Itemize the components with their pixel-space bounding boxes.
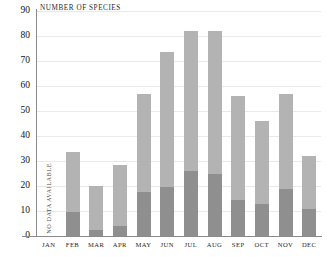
bar-segment-upper [255, 121, 269, 204]
y-tick-label: 50 [4, 106, 30, 116]
bar-segment-lower [184, 171, 198, 236]
bar-segment-lower [160, 187, 174, 236]
bar-dec[interactable] [302, 156, 316, 236]
bar-apr[interactable] [113, 165, 127, 236]
no-data-available-label: No data available [42, 114, 56, 234]
bar-segment-lower [231, 200, 245, 236]
bar-aug[interactable] [208, 31, 222, 236]
y-tick-label: 10 [4, 206, 30, 216]
bar-jul[interactable] [184, 31, 198, 236]
y-tick-label: 20 [4, 181, 30, 191]
x-tick-label-dec: DEC [294, 241, 324, 248]
bar-mar[interactable] [89, 186, 103, 236]
bar-segment-upper [66, 152, 80, 212]
bar-segment-lower [66, 212, 80, 236]
y-tick-label: 80 [4, 31, 30, 41]
bar-jun[interactable] [160, 52, 174, 236]
bar-segment-upper [279, 94, 293, 189]
bar-segment-lower [113, 226, 127, 236]
bar-segment-lower [255, 204, 269, 237]
no-data-available-text: No data available [45, 163, 52, 234]
bar-segment-lower [208, 174, 222, 237]
bar-segment-upper [113, 165, 127, 226]
y-tick-label: 60 [4, 81, 30, 91]
bar-nov[interactable] [279, 94, 293, 237]
x-axis-tick-labels: JANFEBMARAPRMAYJUNJULAUGSEPOCTNOVDEC [37, 239, 321, 255]
bar-segment-upper [208, 31, 222, 174]
bar-segment-upper [231, 96, 245, 200]
bar-segment-upper [302, 156, 316, 209]
x-axis-line [22, 236, 322, 237]
bar-segment-upper [89, 186, 103, 230]
bar-segment-lower [279, 189, 293, 237]
bar-sep[interactable] [231, 96, 245, 236]
species-bar-chart: Number of Species 0102030405060708090 No… [0, 0, 327, 257]
bar-segment-upper [184, 31, 198, 171]
y-tick-label: 70 [4, 56, 30, 66]
bar-series-group: No data available [37, 11, 321, 236]
bar-segment-lower [89, 230, 103, 236]
bar-segment-lower [302, 209, 316, 237]
y-tick-label: 90 [4, 6, 30, 16]
bar-segment-upper [160, 52, 174, 187]
y-tick-label: 40 [4, 131, 30, 141]
bar-oct[interactable] [255, 121, 269, 236]
bar-may[interactable] [137, 94, 151, 237]
bar-segment-upper [137, 94, 151, 193]
bar-feb[interactable] [66, 152, 80, 236]
y-tick-label: 30 [4, 156, 30, 166]
plot-area: No data available [37, 11, 321, 236]
bar-segment-lower [137, 192, 151, 236]
